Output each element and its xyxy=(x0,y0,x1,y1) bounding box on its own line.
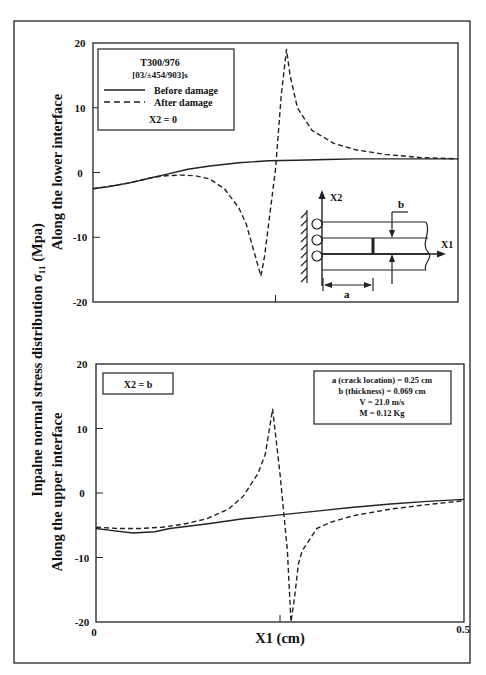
legend-title-material: T300/976 xyxy=(140,57,179,68)
roller-support-3 xyxy=(312,251,322,261)
y-axis-title-main: Inpalne normal stress distribution σ₁₁ (… xyxy=(29,223,46,497)
y-tick-label: 20 xyxy=(77,358,89,370)
y-tick-label: 10 xyxy=(75,102,87,114)
wall-hatch xyxy=(301,212,307,282)
x-tick-label-0-5: 0.5 xyxy=(456,623,470,635)
y-axis-title-bottom: Along the upper interface xyxy=(49,412,65,571)
y-axis-title-top: Along the lower interface xyxy=(49,93,65,250)
a-arrowhead-right-icon xyxy=(364,282,372,288)
roller-support-2 xyxy=(312,235,322,245)
bottom-panel: 20100-10-20 X2 = b a (crack location) = … xyxy=(75,358,471,647)
legend-label-after: After damage xyxy=(154,97,213,108)
y-tick-label: -20 xyxy=(75,616,90,628)
param-velocity: V = 21.0 m/s xyxy=(360,397,406,407)
x1-axis-label: X1 xyxy=(441,239,453,250)
bottom-series xyxy=(96,409,464,622)
y-tick-label: 0 xyxy=(77,167,83,179)
outer-frame xyxy=(14,21,470,663)
before-damage-line xyxy=(96,499,464,533)
inset-beam-diagram: X2 X1 b xyxy=(301,190,453,300)
roller-support-1 xyxy=(312,219,322,229)
y-tick-label: 0 xyxy=(79,487,85,499)
y-tick-label: -10 xyxy=(73,231,88,243)
legend-label-before: Before damage xyxy=(154,85,219,96)
b-label: b xyxy=(398,198,404,210)
beam-break-line xyxy=(425,222,430,270)
bottom-y-ticks: 20100-10-20 xyxy=(75,358,103,628)
x2-box-label: X2 = b xyxy=(124,379,153,390)
parameters-box: a (crack location) = 0.25 cm b (thicknes… xyxy=(314,371,451,424)
legend-title-layup: [03/±454/903]s xyxy=(132,70,188,80)
x1-arrowhead-icon xyxy=(437,251,446,258)
a-label: a xyxy=(344,288,350,300)
x-tick-label-0: 0 xyxy=(91,626,97,638)
b-arrowhead-down-icon xyxy=(389,230,395,238)
y-tick-label: -10 xyxy=(75,552,90,564)
a-arrowhead-left-icon xyxy=(324,282,332,288)
y-tick-label: 20 xyxy=(75,37,87,49)
top-y-ticks: 20100-10-20 xyxy=(73,37,100,308)
top-legend: T300/976 [03/±454/903]s Before damage Af… xyxy=(98,49,234,130)
b-arrowhead-up-icon xyxy=(389,254,395,262)
legend-note-x2: X2 = 0 xyxy=(149,114,177,125)
top-panel: 20100-10-20 T300/976 [03/±454/903]s Befo… xyxy=(73,37,458,308)
x-axis-title: X1 (cm) xyxy=(255,630,305,647)
param-thickness: b (thickness) = 0.069 cm xyxy=(338,386,425,396)
y-tick-label: -20 xyxy=(73,296,88,308)
x2-arrowhead-icon xyxy=(319,190,326,199)
param-crack-location: a (crack location) = 0.25 cm xyxy=(332,375,432,385)
x2-axis-label: X2 xyxy=(330,192,342,203)
y-tick-label: 10 xyxy=(77,423,89,435)
figure: Inpalne normal stress distribution σ₁₁ (… xyxy=(0,0,486,675)
param-mass: M = 0.12 Kg xyxy=(360,408,406,418)
x2-equals-b-box: X2 = b xyxy=(103,373,173,394)
